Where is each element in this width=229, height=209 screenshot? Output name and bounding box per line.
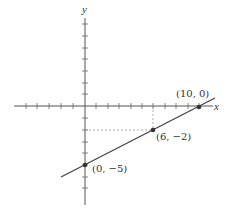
- point-6-neg2: [151, 128, 156, 133]
- point-0-neg5: [83, 163, 88, 168]
- point-label-10-0: (10, 0): [176, 88, 209, 99]
- point-10-0: [197, 105, 202, 110]
- point-label-0-neg5: (0, −5): [92, 163, 127, 174]
- coordinate-plane: y x (10, 0) (6, −2) (0, −5): [0, 0, 229, 209]
- point-label-6-neg2: (6, −2): [156, 131, 191, 142]
- x-axis-label: x: [213, 100, 219, 112]
- y-axis-label: y: [81, 3, 87, 15]
